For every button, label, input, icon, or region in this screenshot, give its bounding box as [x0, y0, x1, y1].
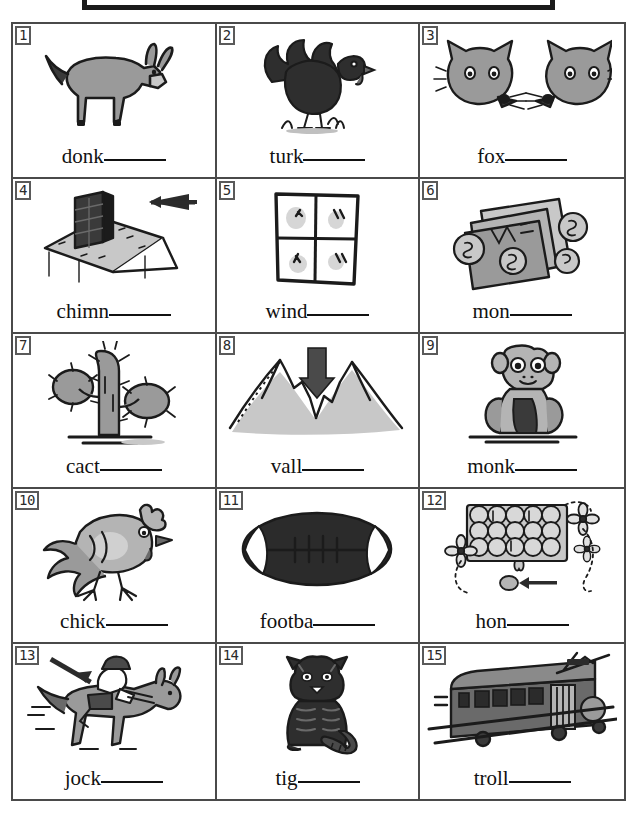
word-stem: monk [467, 454, 515, 478]
word-stem: fox [477, 144, 505, 168]
donkey-picture [13, 30, 215, 138]
honey-picture [420, 495, 624, 603]
window-picture [217, 185, 419, 293]
answer-blank[interactable] [101, 780, 163, 783]
worksheet-item-7[interactable]: 7 cact [13, 334, 217, 489]
worksheet-item-4[interactable]: 4 chimn [13, 179, 217, 334]
worksheet-item-11[interactable]: 11 footba [217, 489, 421, 644]
title-box [82, 0, 555, 10]
word-stem: tig [275, 766, 297, 790]
answer-blank[interactable] [515, 468, 577, 471]
word-stem: donk [62, 144, 104, 168]
word-prompt-line: tig [217, 766, 419, 791]
word-stem: vall [271, 454, 303, 478]
football-picture [217, 495, 419, 603]
item-number-badge: 8 [219, 336, 235, 355]
word-prompt-line: turk [217, 144, 419, 169]
word-stem: mon [472, 299, 509, 323]
item-number-badge: 9 [422, 336, 438, 355]
word-stem: hon [475, 609, 507, 633]
chimney-picture [13, 185, 215, 293]
valley-picture [217, 340, 419, 448]
item-number-badge: 7 [15, 336, 31, 355]
jockey-picture [13, 650, 215, 758]
item-number-badge: 15 [422, 646, 446, 665]
word-prompt-line: monk [420, 454, 624, 479]
answer-blank[interactable] [510, 313, 572, 316]
worksheet-item-13[interactable]: 13 jock [13, 644, 217, 799]
word-stem: wind [265, 299, 307, 323]
word-prompt-line: fox [420, 144, 624, 169]
word-stem: cact [66, 454, 100, 478]
answer-blank[interactable] [298, 780, 360, 783]
word-stem: chick [60, 609, 105, 633]
worksheet-grid: 1 donk2 turk [11, 22, 626, 801]
word-prompt-line: cact [13, 454, 215, 479]
word-prompt-line: mon [420, 299, 624, 324]
word-prompt-line: wind [217, 299, 419, 324]
answer-blank[interactable] [100, 468, 162, 471]
word-prompt-line: footba [217, 609, 419, 634]
item-number-badge: 11 [219, 491, 243, 510]
word-prompt-line: donk [13, 144, 215, 169]
word-stem: chimn [57, 299, 110, 323]
trolley-picture [420, 650, 624, 758]
worksheet-item-8[interactable]: 8 vall [217, 334, 421, 489]
item-number-badge: 4 [15, 181, 31, 200]
worksheet-item-1[interactable]: 1 donk [13, 24, 217, 179]
worksheet-item-2[interactable]: 2 turk [217, 24, 421, 179]
item-number-badge: 13 [15, 646, 39, 665]
item-number-badge: 12 [422, 491, 446, 510]
worksheet-item-14[interactable]: 14 tig [217, 644, 421, 799]
answer-blank[interactable] [302, 468, 364, 471]
item-number-badge: 5 [219, 181, 235, 200]
tiger-picture [217, 650, 419, 758]
chicken-picture [13, 495, 215, 603]
word-prompt-line: chick [13, 609, 215, 634]
word-prompt-line: vall [217, 454, 419, 479]
cactus-picture [13, 340, 215, 448]
item-number-badge: 14 [219, 646, 243, 665]
worksheet-item-9[interactable]: 9 monk [420, 334, 624, 489]
worksheet-item-3[interactable]: 3 fox [420, 24, 624, 179]
item-number-badge: 3 [422, 26, 438, 45]
worksheet-item-12[interactable]: 12 [420, 489, 624, 644]
answer-blank[interactable] [106, 623, 168, 626]
money-picture [420, 185, 624, 293]
turkey-picture [217, 30, 419, 138]
word-stem: jock [65, 766, 101, 790]
worksheet-item-15[interactable]: 15 [420, 644, 624, 799]
monkey-picture [420, 340, 624, 448]
answer-blank[interactable] [509, 780, 571, 783]
answer-blank[interactable] [313, 623, 375, 626]
word-stem: footba [260, 609, 314, 633]
answer-blank[interactable] [307, 313, 369, 316]
word-stem: turk [270, 144, 304, 168]
word-prompt-line: troll [420, 766, 624, 791]
item-number-badge: 1 [15, 26, 31, 45]
item-number-badge: 10 [15, 491, 39, 510]
word-prompt-line: chimn [13, 299, 215, 324]
item-number-badge: 6 [422, 181, 438, 200]
worksheet-item-10[interactable]: 10 chick [13, 489, 217, 644]
answer-blank[interactable] [507, 623, 569, 626]
word-stem: troll [474, 766, 509, 790]
worksheet-item-6[interactable]: 6 mon [420, 179, 624, 334]
word-prompt-line: hon [420, 609, 624, 634]
foxes-picture [420, 30, 624, 138]
answer-blank[interactable] [303, 158, 365, 161]
answer-blank[interactable] [109, 313, 171, 316]
word-prompt-line: jock [13, 766, 215, 791]
answer-blank[interactable] [505, 158, 567, 161]
answer-blank[interactable] [104, 158, 166, 161]
item-number-badge: 2 [219, 26, 235, 45]
worksheet-item-5[interactable]: 5 wind [217, 179, 421, 334]
